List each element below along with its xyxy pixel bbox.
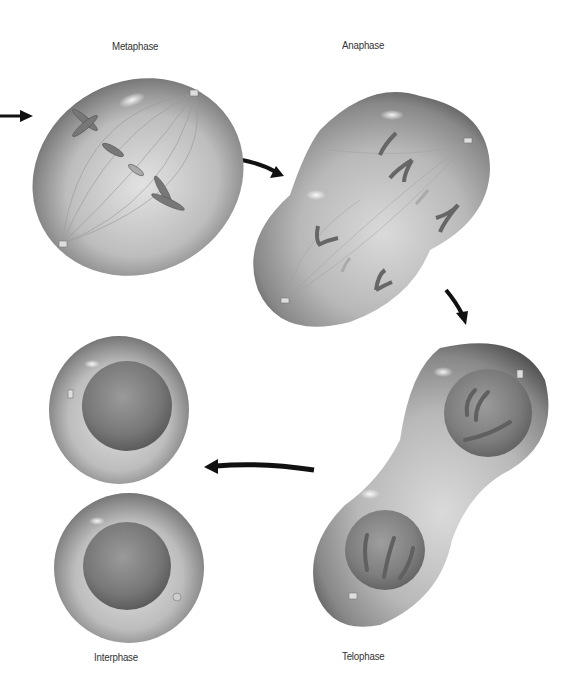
nucleus-telophase-upper [444, 369, 532, 457]
cell-anaphase [253, 92, 490, 327]
cell-interphase-upper [49, 336, 189, 484]
arrow-into-metaphase [0, 110, 33, 122]
cell-telophase [313, 343, 548, 627]
arrow-anaphase-to-telophase [446, 290, 468, 325]
nucleus-interphase-lower [83, 522, 171, 610]
cell-interphase-lower [54, 493, 204, 643]
arrow-telophase-to-interphase [204, 459, 314, 474]
cell-metaphase [0, 42, 278, 313]
nucleus-interphase-upper [82, 361, 172, 451]
mitosis-diagram [0, 0, 583, 695]
arrow-metaphase-to-anaphase [242, 160, 284, 178]
